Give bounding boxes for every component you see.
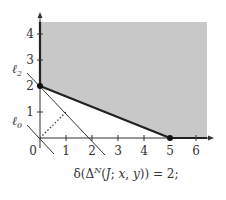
x-tick-label-4: 4 xyxy=(140,144,148,158)
caption: δ(ΔN(J; x, y)) = 2; xyxy=(0,166,226,181)
x-tick-label-2: 2 xyxy=(88,144,96,158)
y-tick-label-2: 2 xyxy=(26,79,34,93)
y-tick-label-4: 4 xyxy=(26,27,34,41)
dotted-segment xyxy=(40,112,66,138)
x-axis-arrow-icon xyxy=(208,136,214,141)
y-axis-arrow-icon xyxy=(38,12,43,18)
x-tick-label-0: 0 xyxy=(29,144,37,158)
label-l2: ℓ2 xyxy=(12,62,22,78)
x-tick-label-3: 3 xyxy=(114,144,122,158)
label-l0: ℓ0 xyxy=(12,114,22,130)
vertex-0-2 xyxy=(37,83,43,89)
x-tick-label-1: 1 xyxy=(62,144,70,158)
x-tick-label-5: 5 xyxy=(166,144,174,158)
vertex-5-0 xyxy=(167,135,173,141)
shaded-region xyxy=(40,22,207,138)
newton-diagram: 0 1 2 3 4 5 6 1 2 3 4 ℓ2 ℓ0 δ(ΔN(J; x, y… xyxy=(0,0,226,200)
y-tick-label-1: 1 xyxy=(26,105,34,119)
y-tick-label-3: 3 xyxy=(26,53,34,67)
x-tick-label-6: 6 xyxy=(192,144,200,158)
